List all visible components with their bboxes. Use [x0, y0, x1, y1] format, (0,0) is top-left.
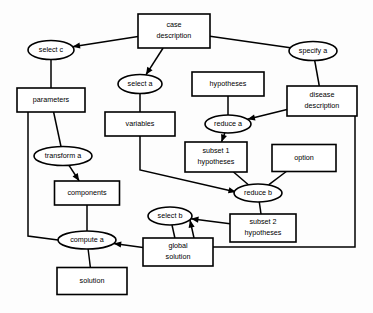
- edge-select_b-to-global_solution: [172, 225, 175, 238]
- node-transform_a[interactable]: transform a: [34, 147, 92, 166]
- node-solution[interactable]: solution: [57, 268, 127, 295]
- edge-parameters-to-compute_a: [28, 112, 58, 240]
- node-shape-box: [57, 268, 127, 295]
- node-shape-box: [287, 86, 357, 116]
- node-shape-box: [143, 238, 213, 266]
- node-layer: casedescriptionselect cspecify aselect a…: [17, 14, 357, 295]
- edge-arrowhead: [146, 67, 153, 75]
- node-variables[interactable]: variables: [105, 112, 175, 136]
- diagram-svg: casedescriptionselect cspecify aselect a…: [0, 0, 373, 313]
- node-shape-box: [185, 142, 247, 172]
- node-shape-box: [192, 72, 264, 96]
- node-shape-ellipse: [205, 115, 251, 133]
- edge-subset_1-to-reduce_b: [234, 172, 249, 185]
- node-specify_a[interactable]: specify a: [289, 42, 337, 61]
- node-shape-ellipse: [118, 75, 162, 94]
- node-shape-ellipse: [289, 42, 337, 61]
- edge-case_description-to-select_c: [73, 37, 139, 47]
- node-shape-box: [272, 145, 336, 172]
- node-shape-box: [138, 14, 210, 48]
- node-reduce_a[interactable]: reduce a: [205, 115, 251, 133]
- edge-specify_a-to-disease_description: [315, 61, 320, 87]
- node-shape-ellipse: [234, 184, 282, 202]
- edge-compute_a-to-solution: [88, 249, 90, 268]
- edge-arrowhead: [73, 173, 80, 181]
- node-shape-box: [17, 88, 85, 112]
- node-global_solution[interactable]: globalsolution: [143, 238, 213, 266]
- node-case_description[interactable]: casedescription: [138, 14, 210, 48]
- node-shape-box: [230, 214, 296, 242]
- node-shape-ellipse: [148, 207, 192, 225]
- node-reduce_b[interactable]: reduce b: [234, 184, 282, 202]
- node-shape-ellipse: [34, 147, 92, 166]
- node-shape-box: [55, 181, 120, 205]
- node-subset_1[interactable]: subset 1hypotheses: [185, 142, 247, 172]
- edge-arrowhead: [221, 134, 227, 142]
- node-hypotheses[interactable]: hypotheses: [192, 72, 264, 96]
- node-subset_2[interactable]: subset 2hypotheses: [230, 214, 296, 242]
- node-select_b[interactable]: select b: [148, 207, 192, 225]
- diagram-canvas: casedescriptionselect cspecify aselect a…: [0, 0, 373, 313]
- node-shape-ellipse: [58, 231, 116, 249]
- node-compute_a[interactable]: compute a: [58, 231, 116, 249]
- edge-parameters-to-transform_a: [54, 112, 61, 147]
- node-components[interactable]: components: [55, 181, 120, 205]
- node-option[interactable]: option: [272, 145, 336, 172]
- edge-case_description-to-specify_a: [210, 36, 290, 48]
- node-shape-box: [105, 112, 175, 136]
- edge-reduce_b-to-subset_2: [259, 202, 261, 214]
- node-select_c[interactable]: select c: [28, 41, 74, 60]
- node-parameters[interactable]: parameters: [17, 88, 85, 112]
- edge-option-to-reduce_b: [269, 172, 287, 185]
- node-select_a[interactable]: select a: [118, 75, 162, 94]
- node-disease_description[interactable]: diseasedescription: [287, 86, 357, 116]
- node-shape-ellipse: [28, 41, 74, 60]
